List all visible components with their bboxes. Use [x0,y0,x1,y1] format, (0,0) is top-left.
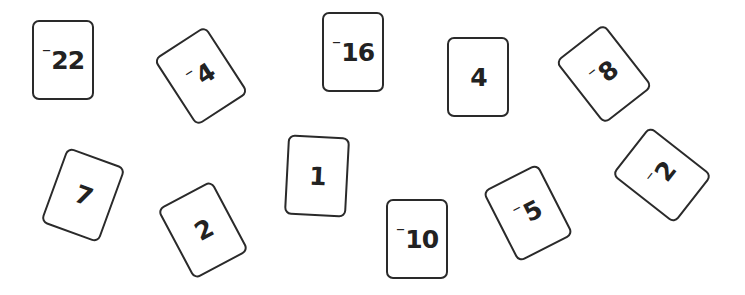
number-card[interactable]: 4 [447,37,509,117]
number-card[interactable]: ⁻8 [555,23,653,124]
number-card[interactable]: 1 [284,134,350,217]
card-value: ⁻5 [510,194,546,232]
negative-sign: ⁻ [332,35,341,56]
card-value: ⁻8 [585,55,623,94]
card-value: ⁻2 [643,156,682,194]
negative-sign: ⁻ [42,43,51,64]
card-value: ⁻10 [396,225,438,254]
card-value: 2 [189,213,218,247]
card-value: 4 [469,63,486,92]
number-card[interactable]: ⁻2 [611,126,712,224]
number-card[interactable]: 7 [40,147,126,243]
number-card[interactable]: ⁻4 [153,26,249,127]
card-value: ⁻16 [332,38,374,67]
number-card[interactable]: ⁻10 [386,199,448,279]
number-card[interactable]: ⁻22 [32,20,94,100]
card-value: 1 [308,161,327,191]
negative-sign: ⁻ [396,222,405,243]
number-card[interactable]: ⁻5 [482,163,574,262]
card-value: 7 [70,178,96,211]
card-value: ⁻4 [182,57,220,95]
number-card[interactable]: ⁻16 [322,12,384,92]
card-value: ⁻22 [42,46,84,75]
number-card[interactable]: 2 [157,180,249,280]
